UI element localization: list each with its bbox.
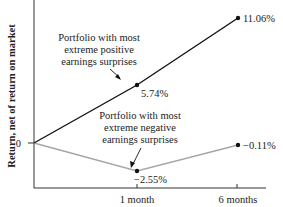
positive-annotation: Portfolio with most extreme positive ear…: [58, 32, 140, 67]
neg-6m-label: −0.11%: [243, 140, 276, 151]
chart: Return, net of return on market 0 1 mont…: [0, 0, 283, 207]
pos-1m-point: [135, 83, 139, 87]
negative-annotation: Portfolio with most extreme negative ear…: [99, 110, 181, 145]
svg-text:Portfolio with most: Portfolio with most: [99, 110, 181, 121]
pos-1m-label: 5.74%: [141, 88, 168, 99]
x-tick-label-6-months: 6 months: [219, 194, 258, 205]
y-tick-label-zero: 0: [16, 138, 21, 149]
svg-text:earnings surprises: earnings surprises: [102, 134, 178, 145]
svg-text:extreme negative: extreme negative: [104, 122, 176, 133]
neg-1m-point: [135, 169, 139, 173]
neg-6m-point: [236, 143, 240, 147]
neg-1m-label: −2.55%: [134, 174, 167, 185]
svg-text:extreme positive: extreme positive: [64, 44, 134, 55]
pos-6m-point: [236, 16, 240, 20]
svg-text:Portfolio with most: Portfolio with most: [58, 32, 140, 43]
x-tick-label-1-month: 1 month: [120, 194, 155, 205]
svg-text:earnings surprises: earnings surprises: [61, 56, 137, 67]
pos-6m-label: 11.06%: [243, 13, 275, 24]
negative-annotation-arrow: [133, 148, 141, 164]
